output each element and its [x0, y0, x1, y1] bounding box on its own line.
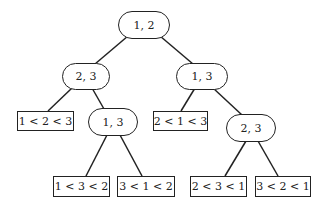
node-left: 2, 3	[62, 63, 110, 90]
edge-r-rr	[213, 88, 242, 115]
edge-root-l	[95, 36, 128, 64]
node-right-right: 2, 3	[226, 114, 276, 142]
leaf-2-1-3: 2 < 1 < 3	[153, 111, 208, 131]
leaf-1-3-2: 1 < 3 < 2	[53, 176, 110, 197]
leaf-3-2-1: 3 < 2 < 1	[255, 176, 311, 197]
edge-rr-rrl	[225, 141, 246, 176]
leaf-2-3-1: 2 < 3 < 1	[190, 176, 247, 197]
edge-l-ll	[48, 88, 72, 111]
node-left-right: 1, 3	[88, 108, 138, 136]
node-root: 1, 2	[118, 11, 170, 39]
edge-rr-rrr	[258, 141, 278, 176]
edge-lr-lrl	[86, 135, 107, 176]
leaf-3-1-2: 3 < 1 < 2	[117, 176, 175, 197]
leaf-1-2-3: 1 < 2 < 3	[17, 111, 74, 131]
node-right: 1, 3	[176, 63, 228, 90]
edge-l-lr	[92, 88, 104, 109]
edge-r-rl	[181, 88, 195, 111]
edge-root-r	[160, 36, 193, 64]
edge-lr-lrr	[120, 135, 142, 176]
